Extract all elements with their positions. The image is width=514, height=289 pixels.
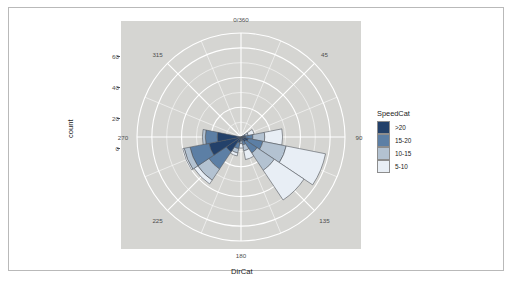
screenshot-root: 60 40 20 0 count 0/360459013518022527031… [0, 0, 514, 289]
legend-swatch [377, 147, 390, 160]
legend-item[interactable]: 10-15 [377, 147, 443, 160]
legend-title: SpeedCat [377, 109, 443, 118]
y-tick-mark-20 [117, 118, 120, 119]
direction-label-0-360: 0/360 [233, 16, 248, 23]
direction-label-135: 135 [319, 217, 329, 224]
y-tick-mark-60 [117, 56, 120, 57]
legend-swatch [377, 121, 390, 134]
legend-item-label: >20 [395, 124, 406, 131]
direction-label-225: 225 [152, 217, 162, 224]
polar-bar-segment [202, 129, 206, 144]
legend-swatch [377, 160, 390, 173]
direction-label-180: 180 [236, 252, 246, 259]
plot-panel: 0/3604590135180225270315 [121, 21, 361, 249]
legend-item-label: 15-20 [395, 137, 411, 144]
legend: SpeedCat >2015-2010-155-10 [377, 109, 443, 173]
legend-swatch [377, 134, 390, 147]
y-axis-ticks: 60 40 20 0 [71, 8, 119, 289]
figure-frame: 60 40 20 0 count 0/360459013518022527031… [8, 7, 504, 271]
y-tick-mark-40 [117, 87, 120, 88]
legend-item-label: 10-15 [395, 150, 411, 157]
legend-item[interactable]: 15-20 [377, 134, 443, 147]
direction-label-315: 315 [152, 50, 162, 57]
x-axis-title: DirCat [231, 267, 253, 276]
direction-label-45: 45 [321, 50, 328, 57]
direction-label-270: 270 [118, 134, 128, 141]
legend-item-label: 5-10 [395, 163, 408, 170]
polar-bar-segment [205, 130, 217, 144]
polar-bars [183, 129, 326, 200]
y-axis-title: count [66, 119, 75, 138]
legend-items: >2015-2010-155-10 [377, 121, 443, 173]
legend-item[interactable]: >20 [377, 121, 443, 134]
legend-item[interactable]: 5-10 [377, 160, 443, 173]
y-tick-mark-0 [117, 148, 120, 149]
direction-label-90: 90 [356, 134, 363, 141]
